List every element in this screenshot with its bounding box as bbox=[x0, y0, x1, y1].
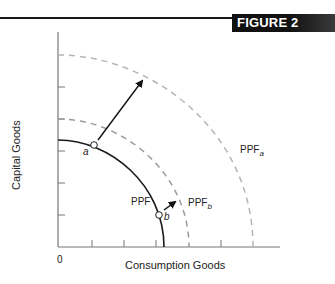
origin-label: 0 bbox=[57, 254, 63, 265]
point-a-label: a bbox=[83, 146, 89, 157]
x-ticks bbox=[92, 240, 221, 247]
ppf-chart bbox=[0, 0, 335, 284]
ppf-a-label: PPFa bbox=[240, 144, 264, 158]
y-ticks bbox=[58, 87, 65, 215]
point-b bbox=[156, 212, 163, 219]
ppf-a-label-text: PPF bbox=[240, 144, 259, 155]
ppf-b-label: PPFb bbox=[188, 197, 212, 211]
ppf-b-label-text: PPF bbox=[188, 197, 207, 208]
ppf-label-text: PPF bbox=[131, 196, 150, 207]
point-b-label: b bbox=[164, 211, 170, 222]
arrow-from-a bbox=[98, 81, 142, 140]
ppf-b-label-sub: b bbox=[207, 202, 211, 211]
point-a bbox=[91, 142, 98, 149]
ppf-b-curve bbox=[58, 119, 189, 247]
y-axis-label: Capital Goods bbox=[10, 120, 22, 190]
x-axis-label: Consumption Goods bbox=[125, 259, 225, 271]
arrow-from-b bbox=[164, 202, 175, 210]
ppf-a-label-sub: a bbox=[259, 149, 263, 158]
ppf-label: PPF bbox=[131, 196, 150, 207]
